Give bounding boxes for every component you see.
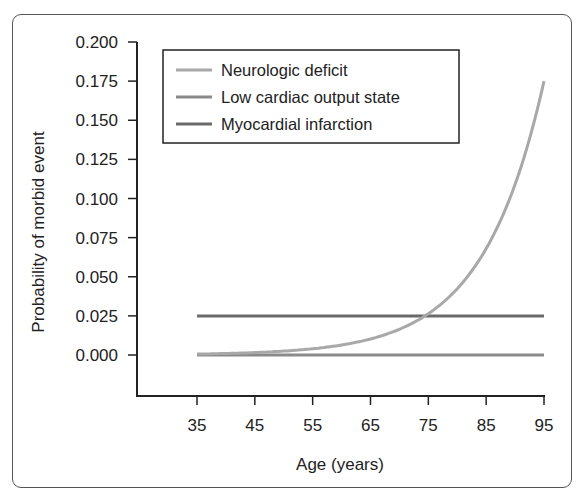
- x-tick-label: 75: [419, 416, 438, 435]
- y-tick-label: 0.100: [75, 190, 118, 209]
- legend: Neurologic deficitLow cardiac output sta…: [163, 50, 459, 143]
- x-tick-label: 85: [477, 416, 496, 435]
- y-tick-label: 0.200: [75, 33, 118, 52]
- x-tick-label: 95: [535, 416, 554, 435]
- y-tick-label: 0.150: [75, 111, 118, 130]
- y-axis-title: Probability of morbid event: [29, 131, 48, 333]
- y-tick-label: 0.075: [75, 229, 118, 248]
- x-tick-label: 65: [361, 416, 380, 435]
- y-tick-label: 0.125: [75, 150, 118, 169]
- legend-label: Neurologic deficit: [221, 61, 348, 79]
- y-tick-label: 0.000: [75, 346, 118, 365]
- x-tick-label: 35: [188, 416, 207, 435]
- legend-label: Myocardial infarction: [221, 115, 372, 133]
- y-tick-label: 0.175: [75, 72, 118, 91]
- x-axis-title: Age (years): [296, 455, 384, 474]
- legend-label: Low cardiac output state: [221, 88, 400, 106]
- y-tick-label: 0.025: [75, 307, 118, 326]
- line-chart: 0.0000.0250.0500.0750.1000.1250.1500.175…: [0, 0, 586, 499]
- x-tick-label: 55: [303, 416, 322, 435]
- x-tick-label: 45: [245, 416, 264, 435]
- y-tick-label: 0.050: [75, 268, 118, 287]
